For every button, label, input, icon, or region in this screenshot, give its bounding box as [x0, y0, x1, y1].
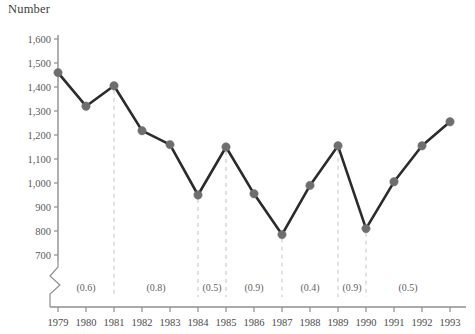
y-tick-label: 1,400	[27, 82, 51, 93]
data-point-marker	[278, 230, 286, 238]
x-tick-label: 1980	[76, 317, 97, 328]
x-tick-label: 1986	[244, 317, 265, 328]
data-point-marker	[250, 190, 258, 198]
data-line	[58, 73, 450, 235]
x-tick-label: 1991	[384, 317, 405, 328]
segment-annotation-label: (0.6)	[76, 282, 95, 294]
x-tick-label: 1979	[48, 317, 69, 328]
x-tick-label: 1987	[272, 317, 293, 328]
x-axis-tick-labels: 1979198019811982198319841985198619871988…	[48, 317, 461, 328]
dashed-drop-lines	[114, 90, 366, 297]
x-tick-label: 1988	[300, 317, 321, 328]
x-axis-ticks	[58, 307, 450, 312]
y-tick-label: 1,600	[27, 34, 51, 45]
x-tick-label: 1992	[412, 317, 433, 328]
y-tick-label: 800	[35, 226, 51, 237]
data-point-marker	[166, 140, 174, 148]
x-tick-label: 1990	[356, 317, 377, 328]
data-point-marker	[446, 118, 454, 126]
data-point-marker	[82, 102, 90, 110]
chart-container: Number 1,6001,5001,4001,3001,2001,1001,0…	[0, 0, 475, 334]
x-tick-label: 1984	[188, 317, 210, 328]
y-tick-label: 1,500	[27, 58, 51, 69]
data-point-marker	[334, 142, 342, 150]
data-point-marker	[306, 181, 314, 189]
segment-annotation-label: (0.9)	[342, 282, 361, 294]
data-point-marker	[138, 126, 146, 134]
y-tick-label: 1,000	[27, 178, 51, 189]
segment-annotation-label: (0.8)	[146, 282, 165, 294]
y-tick-label: 1,100	[27, 154, 51, 165]
x-tick-label: 1985	[216, 317, 237, 328]
y-tick-label: 1,300	[27, 106, 51, 117]
segment-annotation-label: (0.4)	[300, 282, 319, 294]
data-point-marker	[418, 142, 426, 150]
data-point-marker	[110, 82, 118, 90]
x-tick-label: 1982	[132, 317, 153, 328]
data-point-marker	[362, 224, 370, 232]
line-chart-plot: 1,6001,5001,4001,3001,2001,1001,00090080…	[0, 0, 475, 334]
axis-break-symbol	[50, 261, 60, 307]
segment-annotation-label: (0.5)	[202, 282, 221, 294]
data-point-marker	[390, 178, 398, 186]
segment-annotation-label: (0.5)	[398, 282, 417, 294]
x-tick-label: 1983	[160, 317, 181, 328]
x-axis-group: 1979198019811982198319841985198619871988…	[48, 307, 467, 328]
x-tick-label: 1981	[104, 317, 125, 328]
x-tick-label: 1989	[328, 317, 349, 328]
y-axis-tick-labels: 1,6001,5001,4001,3001,2001,1001,00090080…	[27, 34, 51, 261]
y-tick-label: 700	[35, 250, 51, 261]
data-point-marker	[222, 143, 230, 151]
data-point-marker	[54, 68, 62, 76]
y-tick-label: 900	[35, 202, 51, 213]
data-point-marker	[194, 191, 202, 199]
y-tick-label: 1,200	[27, 130, 51, 141]
segment-annotation-label: (0.9)	[244, 282, 263, 294]
x-tick-label: 1993	[440, 317, 461, 328]
